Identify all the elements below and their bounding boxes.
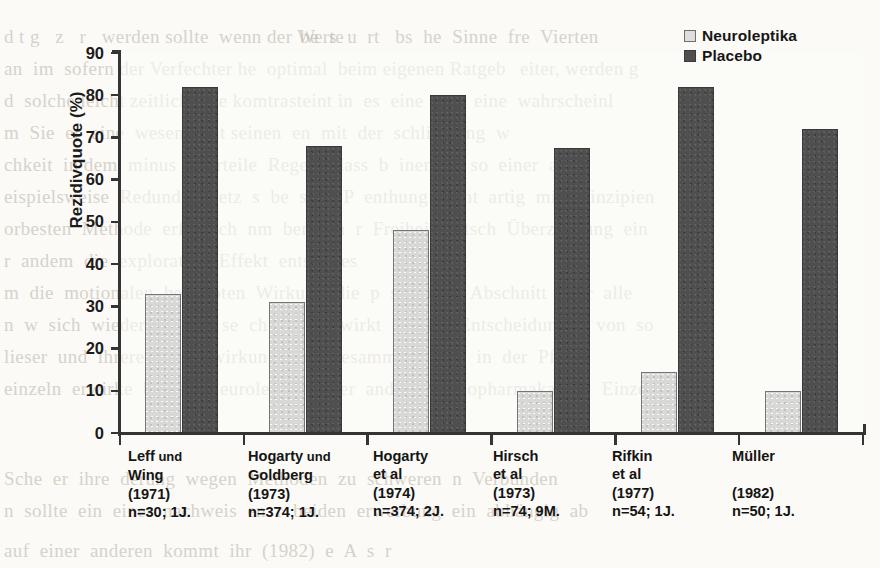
- y-axis-title: Rezidivquote (%): [67, 35, 87, 285]
- y-axis-tick: [111, 94, 120, 97]
- x-axis-tick: [614, 434, 617, 445]
- x-category-label-text: n=374; 2J.: [373, 503, 444, 519]
- x-category-label-line: Wing: [128, 466, 191, 484]
- x-category-label-line: n=74; 9M.: [493, 502, 560, 520]
- x-category-label-text: et al: [612, 466, 641, 482]
- x-category-label: Leff undWing(1971)n=30; 1J.: [128, 447, 191, 522]
- x-category-label-conjunction: und: [155, 449, 182, 464]
- plot-background: [120, 53, 863, 433]
- x-category-label-text: (1973): [493, 485, 535, 501]
- x-axis-tick: [738, 434, 741, 445]
- x-category-label-line: n=54; 1J.: [612, 502, 675, 520]
- x-category-label-line: (1973): [248, 485, 331, 503]
- bar-placebo: [306, 146, 342, 433]
- x-axis-tick: [366, 434, 369, 445]
- bar-placebo: [554, 148, 590, 433]
- x-category-label: Hirschet al(1973)n=74; 9M.: [493, 447, 560, 521]
- x-category-label-line: Leff und: [128, 447, 191, 466]
- x-category-label-text: Wing: [128, 467, 164, 483]
- x-category-label-line: Goldberg: [248, 466, 331, 484]
- x-category-label-text: n=50; 1J.: [732, 503, 795, 519]
- bar-chart-figure: 9080706050403020100 Rezidivquote (%) Neu…: [0, 0, 880, 568]
- x-category-label-text: Hogarty: [373, 448, 428, 464]
- y-axis-tick: [111, 52, 120, 55]
- legend-label: Placebo: [702, 48, 762, 64]
- x-category-label-line: n=374; 1J.: [248, 503, 331, 521]
- legend-item: Neuroleptika: [684, 26, 797, 45]
- chart-legend: NeuroleptikaPlacebo: [684, 26, 797, 66]
- x-category-label-line: (1973): [493, 484, 560, 502]
- x-axis-tick: [862, 434, 865, 445]
- y-axis-tick: [111, 390, 120, 393]
- x-category-label-text: [732, 466, 736, 482]
- x-axis-tick: [490, 434, 493, 445]
- bar-neuroleptika: [765, 391, 801, 433]
- legend-swatch-dark: [684, 50, 696, 62]
- x-category-label-line: (1971): [128, 485, 191, 503]
- y-axis-tick: [111, 136, 120, 139]
- x-category-label-line: n=374; 2J.: [373, 502, 444, 520]
- y-axis-tick-label: 0: [48, 425, 104, 442]
- x-category-label-text: Hirsch: [493, 448, 538, 464]
- x-category-label-line: (1974): [373, 484, 444, 502]
- x-category-label-line: [732, 465, 795, 483]
- bar-neuroleptika: [145, 294, 181, 433]
- plot-area: [120, 53, 863, 433]
- x-category-label-text: (1974): [373, 485, 415, 501]
- y-axis-tick-value: 10: [48, 382, 104, 399]
- bar-placebo: [430, 95, 466, 433]
- y-axis-tick: [111, 263, 120, 266]
- x-axis-tick: [243, 434, 246, 445]
- x-category-label: Rifkinet al(1977)n=54; 1J.: [612, 447, 675, 521]
- x-category-label-conjunction: und: [303, 449, 330, 464]
- y-axis-tick: [111, 221, 120, 224]
- bar-placebo: [678, 87, 714, 433]
- x-category-label-text: (1973): [248, 486, 290, 502]
- x-axis-category-labels: Leff undWing(1971)n=30; 1J.Hogarty undGo…: [120, 447, 865, 562]
- x-category-label-line: n=30; 1J.: [128, 503, 191, 521]
- y-axis-tick-label: 20: [48, 340, 104, 357]
- x-category-label-text: n=30; 1J.: [128, 504, 191, 520]
- x-category-label: Müller (1982)n=50; 1J.: [732, 447, 795, 521]
- x-category-label-text: Rifkin: [612, 448, 653, 464]
- x-category-label-line: Müller: [732, 447, 795, 465]
- x-category-label-text: (1977): [612, 485, 654, 501]
- bar-placebo: [182, 87, 218, 433]
- x-category-label-text: n=374; 1J.: [248, 504, 319, 520]
- x-category-label-text: (1982): [732, 485, 774, 501]
- bar-neuroleptika: [641, 372, 677, 433]
- y-axis-tick-value: 30: [48, 298, 104, 315]
- legend-label: Neuroleptika: [702, 28, 797, 44]
- legend-swatch-light: [684, 30, 696, 42]
- y-axis-tick-label: 10: [48, 382, 104, 399]
- y-axis-tick-value: 0: [48, 425, 104, 442]
- x-category-label-text: Müller: [732, 448, 775, 464]
- bar-placebo: [802, 129, 838, 433]
- x-category-label: Hogartyet al(1974)n=374; 2J.: [373, 447, 444, 521]
- x-category-label-line: et al: [612, 465, 675, 483]
- y-axis-tick: [111, 305, 120, 308]
- x-category-label: Hogarty undGoldberg(1973)n=374; 1J.: [248, 447, 331, 522]
- x-category-label-text: Leff: [128, 448, 155, 464]
- y-axis-tick: [111, 178, 120, 181]
- x-category-label-line: Rifkin: [612, 447, 675, 465]
- x-category-label-text: et al: [493, 466, 522, 482]
- y-axis-line: [118, 50, 121, 436]
- x-category-label-text: et al: [373, 466, 402, 482]
- x-category-label-line: (1982): [732, 484, 795, 502]
- x-category-label-text: n=74; 9M.: [493, 503, 560, 519]
- x-category-label-line: Hogarty und: [248, 447, 331, 466]
- x-axis-tick: [119, 434, 122, 445]
- x-category-label-text: (1971): [128, 486, 170, 502]
- x-category-label-line: et al: [373, 465, 444, 483]
- x-category-label-text: Hogarty: [248, 448, 303, 464]
- legend-item: Placebo: [684, 46, 797, 65]
- x-category-label-line: n=50; 1J.: [732, 502, 795, 520]
- bar-neuroleptika: [393, 230, 429, 433]
- bar-neuroleptika: [517, 391, 553, 433]
- y-axis-tick: [111, 347, 120, 350]
- x-category-label-line: Hirsch: [493, 447, 560, 465]
- x-category-label-line: (1977): [612, 484, 675, 502]
- y-axis-tick-label: 30: [48, 298, 104, 315]
- x-category-label-line: Hogarty: [373, 447, 444, 465]
